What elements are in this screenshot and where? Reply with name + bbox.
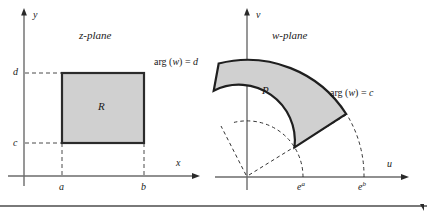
tick-e-a-exponent: a: [301, 180, 305, 188]
w-plane-tick-e-to-the-b: eb: [358, 182, 366, 192]
z-plane-x-axis-arrowhead: [192, 173, 200, 179]
region-label-P: P: [262, 85, 269, 96]
z-plane-tick-c: c: [13, 138, 17, 148]
w-plane-dashed-arc-outer: [346, 114, 364, 177]
w-plane-title-var: w-plane: [272, 29, 307, 41]
w-plane-tick-e-to-the-a: ea: [297, 182, 305, 192]
annular-sector-region-P: [214, 60, 347, 147]
w-plane-dashed-ray-d: [221, 126, 246, 175]
w-plane-dashed-arc-inner: [233, 121, 303, 177]
arg-d-value: d: [193, 56, 198, 67]
z-plane-tick-a: a: [59, 182, 64, 192]
w-plane-v-axis-arrowhead: [244, 8, 250, 16]
w-plane-u-axis-arrowhead: [401, 174, 409, 180]
arg-c-prefix: arg (: [330, 87, 348, 98]
arg-c-suffix: ) =: [355, 87, 369, 98]
region-label-R: R: [98, 101, 105, 112]
w-plane-title: w-plane: [272, 30, 307, 41]
z-plane-title-var: z-plane: [79, 29, 111, 41]
z-plane-x-axis-label: x: [176, 158, 180, 168]
w-plane-u-axis-label: u: [387, 159, 392, 169]
z-plane-y-axis-label: y: [33, 10, 37, 20]
w-plane-v-axis-label: v: [256, 10, 260, 20]
arg-d-prefix: arg (: [154, 56, 172, 67]
arg-w-equals-d-label: arg (w) = d: [154, 57, 198, 67]
z-plane-y-axis-arrowhead: [21, 8, 27, 16]
tick-e-b-exponent: b: [362, 180, 366, 188]
arg-d-suffix: ) =: [179, 56, 193, 67]
arg-c-value: c: [369, 87, 373, 98]
z-plane-tick-d: d: [13, 67, 18, 77]
conformal-mapping-figure: z-plane y x d c a b R w-plane v u arg (w…: [0, 0, 427, 216]
z-plane-title: z-plane: [79, 30, 111, 41]
w-plane-group: [214, 8, 409, 190]
bottom-rule-corner-mark: [420, 204, 424, 211]
arg-w-equals-c-label: arg (w) = c: [330, 88, 374, 98]
z-plane-tick-b: b: [141, 182, 146, 192]
